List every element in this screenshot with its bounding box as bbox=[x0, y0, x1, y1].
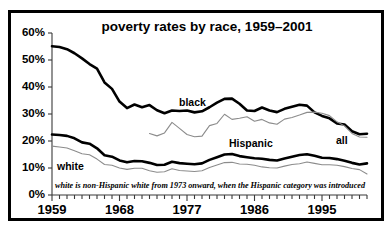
series-label-white: white bbox=[56, 160, 84, 172]
x-tick-label: 1995 bbox=[308, 202, 337, 217]
x-tick-label: 1968 bbox=[105, 202, 134, 217]
y-axis-ticks: 0%10%20%30%40%50%60% bbox=[22, 26, 52, 200]
series-paths bbox=[52, 46, 367, 174]
y-tick-label: 60% bbox=[22, 26, 45, 38]
chart-frame: poverty rates by race, 1959–2001 0%10%20… bbox=[8, 10, 384, 221]
y-tick-label: 50% bbox=[22, 53, 45, 65]
x-tick-label: 1986 bbox=[240, 202, 269, 217]
chart-title: poverty rates by race, 1959–2001 bbox=[102, 19, 313, 34]
y-tick-label: 40% bbox=[22, 80, 45, 92]
chart-canvas: poverty rates by race, 1959–2001 0%10%20… bbox=[11, 13, 381, 218]
x-axis-minor-ticks bbox=[52, 195, 367, 201]
series-line-hispanic bbox=[150, 112, 368, 137]
y-tick-label: 30% bbox=[22, 107, 45, 119]
series-line-black bbox=[52, 46, 367, 134]
chart-footnote: white is non-Hispanic white from 1973 on… bbox=[55, 181, 366, 190]
y-tick-label: 0% bbox=[28, 188, 45, 200]
series-label-all: all bbox=[336, 134, 348, 146]
poverty-rates-figure: poverty rates by race, 1959–2001 0%10%20… bbox=[0, 0, 392, 230]
y-tick-label: 20% bbox=[22, 134, 45, 146]
x-tick-label: 1959 bbox=[38, 202, 67, 217]
x-axis-labels: 19591968197719861995 bbox=[38, 202, 337, 217]
series-label-hispanic: Hispanic bbox=[229, 137, 273, 149]
y-tick-label: 10% bbox=[22, 161, 45, 173]
x-tick-label: 1977 bbox=[173, 202, 202, 217]
series-label-black: black bbox=[179, 96, 206, 108]
